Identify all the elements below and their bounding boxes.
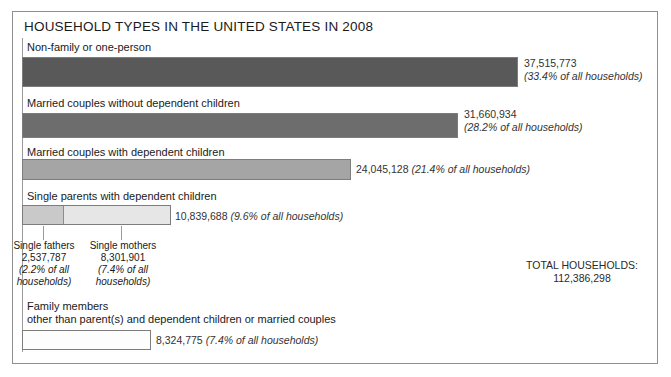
- total-households: TOTAL HOUSEHOLDS: 112,386,298: [508, 259, 656, 285]
- total-households-value: 112,386,298: [553, 272, 611, 284]
- value-number: 10,839,688: [175, 210, 228, 222]
- bar-fill: [23, 160, 350, 179]
- chart-title: HOUSEHOLD TYPES IN THE UNITED STATES IN …: [24, 19, 373, 34]
- bar-fill: [23, 58, 517, 86]
- sublabel-percent: (7.4% of all: [77, 264, 169, 276]
- value-number: 37,515,773: [524, 57, 577, 69]
- bar-family-members[interactable]: [22, 330, 151, 350]
- chart-canvas: HOUSEHOLD TYPES IN THE UNITED STATES IN …: [0, 0, 671, 377]
- value-label-married-with-children: 24,045,128 (21.4% of all households): [356, 163, 530, 176]
- bar-fill: [23, 114, 457, 137]
- bar-married-without-children[interactable]: [22, 113, 458, 138]
- value-label-non-family: 37,515,773 (33.4% of all households): [524, 57, 643, 82]
- bar-non-family[interactable]: [22, 57, 518, 87]
- bar-married-with-children[interactable]: [22, 159, 351, 180]
- value-percent: (7.4% of all households): [206, 334, 319, 346]
- category-label-family-members-line1: Family members: [27, 300, 108, 313]
- bar-single-parents[interactable]: [22, 205, 171, 225]
- sublabel-single-mothers: Single mothers 8,301,901 (7.4% of all ho…: [77, 240, 169, 288]
- bar-segment-single-fathers[interactable]: [23, 206, 64, 224]
- sublabel-title: Single mothers: [90, 240, 157, 251]
- category-label-family-members-line2: other than parent(s) and dependent child…: [27, 313, 336, 326]
- sublabel-percent-cont: households): [77, 276, 169, 288]
- category-label-married-with-children: Married couples with dependent children: [27, 146, 225, 159]
- category-label-single-parents: Single parents with dependent children: [27, 190, 217, 203]
- value-label-family-members: 8,324,775 (7.4% of all households): [156, 334, 318, 347]
- bar-segment-single-mothers[interactable]: [64, 206, 170, 224]
- category-label-married-without-children: Married couples without dependent childr…: [27, 97, 240, 110]
- leader-tick-single-fathers: [43, 226, 44, 240]
- value-number: 24,045,128: [356, 163, 409, 175]
- sublabel-number: 8,301,901: [77, 252, 169, 264]
- value-label-single-parents: 10,839,688 (9.6% of all households): [175, 210, 343, 223]
- value-percent: (28.2% of all households): [464, 121, 583, 133]
- sublabel-title: Single fathers: [13, 240, 74, 251]
- total-households-label: TOTAL HOUSEHOLDS:: [526, 259, 638, 271]
- value-label-married-without-children: 31,660,934 (28.2% of all households): [464, 108, 583, 133]
- value-percent: (9.6% of all households): [230, 210, 343, 222]
- value-percent: (21.4% of all households): [411, 163, 530, 175]
- bar-fill: [23, 331, 150, 349]
- leader-tick-single-mothers: [121, 226, 122, 240]
- value-number: 8,324,775: [156, 334, 203, 346]
- value-number: 31,660,934: [464, 108, 517, 120]
- category-label-non-family: Non-family or one-person: [27, 41, 151, 54]
- value-percent: (33.4% of all households): [524, 70, 643, 82]
